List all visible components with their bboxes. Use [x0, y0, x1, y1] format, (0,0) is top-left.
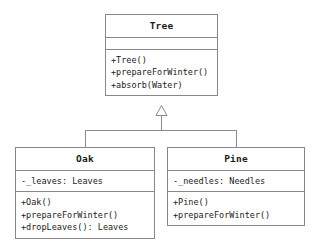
attributes-compartment-tree	[106, 37, 217, 49]
generalization-bus-line	[85, 130, 237, 131]
operation-item: +dropLeaves(): Leaves	[21, 221, 149, 234]
uml-class-diagram-canvas: Tree +Tree() +prepareForWinter() +absorb…	[0, 0, 322, 250]
class-name-pine: Pine	[168, 148, 304, 170]
generalization-branch-line-pine	[236, 130, 237, 147]
generalization-stem-line	[161, 115, 162, 131]
operations-compartment-oak: +Oak() +prepareForWinter() +dropLeaves()…	[16, 191, 154, 238]
attributes-compartment-oak: -_leaves: Leaves	[16, 170, 154, 192]
operation-item: +Oak()	[21, 196, 149, 209]
operation-item: +absorb(Water)	[111, 79, 212, 92]
operations-compartment-pine: +Pine() +prepareForWinter()	[168, 191, 304, 225]
operation-item: +Tree()	[111, 54, 212, 67]
class-name-tree: Tree	[106, 15, 217, 37]
uml-class-oak[interactable]: Oak -_leaves: Leaves +Oak() +prepareForW…	[15, 147, 155, 239]
class-name-oak: Oak	[16, 148, 154, 170]
attribute-item: -_needles: Needles	[173, 175, 299, 188]
operations-compartment-tree: +Tree() +prepareForWinter() +absorb(Wate…	[106, 49, 217, 96]
operation-item: +prepareForWinter()	[111, 66, 212, 79]
generalization-branch-line-oak	[85, 130, 86, 147]
uml-class-tree[interactable]: Tree +Tree() +prepareForWinter() +absorb…	[105, 14, 218, 96]
attributes-compartment-pine: -_needles: Needles	[168, 170, 304, 192]
operation-item: +prepareForWinter()	[21, 209, 149, 222]
operation-item: +Pine()	[173, 196, 299, 209]
attribute-item: -_leaves: Leaves	[21, 175, 149, 188]
operation-item: +prepareForWinter()	[173, 209, 299, 222]
uml-class-pine[interactable]: Pine -_needles: Needles +Pine() +prepare…	[167, 147, 305, 226]
